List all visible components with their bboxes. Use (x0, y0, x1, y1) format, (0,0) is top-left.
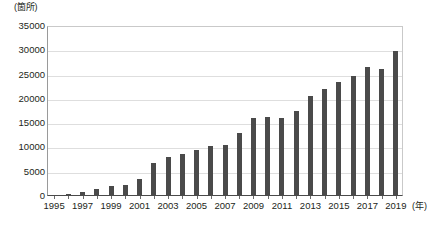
x-axis-tick (211, 196, 212, 199)
bar (208, 146, 213, 196)
x-axis-tick (111, 196, 112, 199)
bar (265, 117, 270, 196)
bar (109, 186, 114, 196)
bar (123, 185, 128, 196)
bar (336, 82, 341, 196)
y-axis-tick-label: 30000 (2, 45, 45, 55)
x-axis-tick (253, 196, 254, 199)
bar (308, 96, 313, 196)
y-axis-tick-label: 15000 (2, 118, 45, 128)
x-axis-tick-label: 2009 (243, 200, 264, 212)
bar (365, 67, 370, 196)
x-axis-tick (154, 196, 155, 199)
bar (94, 189, 99, 196)
bar (180, 154, 185, 196)
x-axis-tick-label: 2001 (129, 200, 150, 212)
x-axis-tick (296, 196, 297, 199)
bar (393, 51, 398, 196)
bar (251, 118, 256, 196)
x-axis-tick-label: 2005 (186, 200, 207, 212)
bar-chart: (箇所) 35000300002500020000150001000050000… (0, 0, 429, 226)
y-axis-tick-labels: 35000300002500020000150001000050000 (0, 0, 45, 226)
x-axis-tick-label: 2017 (357, 200, 378, 212)
x-axis-tick (396, 196, 397, 199)
bar (223, 145, 228, 196)
x-axis-tick (68, 196, 69, 199)
x-axis-tick (140, 196, 141, 199)
x-axis-tick (197, 196, 198, 199)
x-axis-tick (239, 196, 240, 199)
x-axis-tick (182, 196, 183, 199)
y-axis-tick-label: 25000 (2, 70, 45, 80)
x-axis-tick (367, 196, 368, 199)
x-axis-tick-label: 1997 (72, 200, 93, 212)
x-axis-unit-label: (年) (412, 200, 427, 212)
bar (351, 76, 356, 196)
x-axis-tick-label: 1995 (44, 200, 65, 212)
bar-series (47, 26, 403, 196)
y-axis-tick-label: 20000 (2, 94, 45, 104)
x-axis-tick-labels: (年) 199519971999200120032005200720092011… (0, 200, 429, 218)
bar (151, 163, 156, 196)
x-axis-tick-label: 2013 (300, 200, 321, 212)
x-axis-tick-label: 2015 (328, 200, 349, 212)
bar (166, 157, 171, 196)
x-axis-tick (268, 196, 269, 199)
bar (322, 89, 327, 196)
x-axis-tick (339, 196, 340, 199)
x-axis-tick (125, 196, 126, 199)
x-axis-tick (310, 196, 311, 199)
bar (237, 133, 242, 196)
x-axis-tick-label: 2003 (157, 200, 178, 212)
y-axis-tick-label: 10000 (2, 142, 45, 152)
x-axis-tick (225, 196, 226, 199)
y-axis-tick-label: 5000 (2, 167, 45, 177)
x-axis-tick-label: 2011 (272, 200, 292, 212)
x-axis-tick (97, 196, 98, 199)
x-axis-tick (353, 196, 354, 199)
x-axis-tick (83, 196, 84, 199)
bar (194, 150, 199, 196)
x-axis-tick (382, 196, 383, 199)
x-axis-tick (168, 196, 169, 199)
x-axis-tick-label: 1999 (101, 200, 122, 212)
bar (279, 118, 284, 196)
x-axis-tick (54, 196, 55, 199)
bar (137, 179, 142, 196)
x-axis-tick-label: 2019 (385, 200, 406, 212)
bar (379, 69, 384, 196)
bar (294, 111, 299, 196)
x-axis-tick (325, 196, 326, 199)
x-axis-tick-label: 2007 (214, 200, 235, 212)
y-axis-tick-label: 35000 (2, 21, 45, 31)
x-axis-tick (282, 196, 283, 199)
